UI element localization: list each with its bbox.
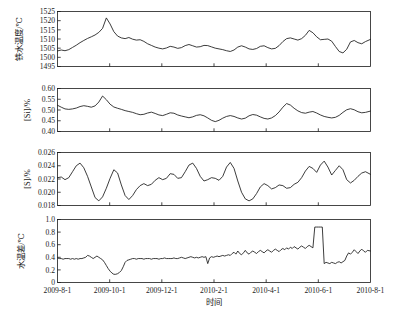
ytick-label-2-2: 0.022 xyxy=(38,175,55,184)
ytick-label-0-6: 1525 xyxy=(40,7,55,16)
xtick-label-2: 2009-12-1 xyxy=(146,286,178,295)
xtick-label-3: 2010-2-1 xyxy=(200,286,228,295)
ytick-label-2-1: 0.020 xyxy=(38,188,55,197)
xaxis-group: 2009-8-12009-10-12009-12-12010-2-12010-4… xyxy=(44,286,385,308)
xtick-label-5: 2010-6-1 xyxy=(304,286,332,295)
ytick-label-3-2: 0.4 xyxy=(46,253,56,262)
ytick-label-1-2: 0.50 xyxy=(42,106,55,115)
xtick-label-1: 2009-10-1 xyxy=(94,286,126,295)
series-line-1-0 xyxy=(58,96,371,122)
panel-3: 00.20.40.60.81.0水温差/℃ xyxy=(16,215,371,287)
xtick-label-4: 2010-4-1 xyxy=(252,286,280,295)
panel-2: 0.0180.0200.0220.0240.026[S]/% xyxy=(23,148,371,210)
ytick-label-3-3: 0.6 xyxy=(46,240,56,249)
xtick-label-6: 2010-8-1 xyxy=(357,286,385,295)
panel-frame-0 xyxy=(58,12,371,67)
ytick-label-3-5: 1.0 xyxy=(46,215,56,224)
ytick-label-2-0: 0.018 xyxy=(38,201,55,210)
ytick-label-1-0: 0.40 xyxy=(42,127,55,136)
ylabel-1: [Si]/% xyxy=(23,99,32,121)
ytick-label-1-4: 0.60 xyxy=(42,84,55,93)
xtick-label-0: 2009-8-1 xyxy=(44,286,72,295)
series-line-0-0 xyxy=(58,18,371,53)
ytick-label-2-3: 0.024 xyxy=(38,161,55,170)
multi-panel-timeseries-figure: 1495150015051510151515201525铁水温度/℃0.400.… xyxy=(0,0,397,314)
ytick-label-0-4: 1515 xyxy=(40,26,55,35)
ylabel-3: 水温差/℃ xyxy=(16,233,26,269)
ytick-label-3-1: 0.2 xyxy=(46,266,56,275)
ytick-label-0-2: 1505 xyxy=(40,44,55,53)
series-line-3-0 xyxy=(58,227,371,274)
ytick-label-2-4: 0.026 xyxy=(38,148,55,157)
panel-frame-2 xyxy=(58,153,371,206)
panel-0: 1495150015051510151515201525铁水温度/℃ xyxy=(14,7,371,71)
series-line-2-0 xyxy=(58,161,371,201)
ytick-label-0-5: 1520 xyxy=(40,16,55,25)
ytick-label-1-1: 0.45 xyxy=(42,116,55,125)
panel-frame-1 xyxy=(58,89,371,132)
ytick-label-1-3: 0.55 xyxy=(42,95,55,104)
panel-1: 0.400.450.500.550.60[Si]/% xyxy=(23,84,371,136)
ytick-label-0-0: 1495 xyxy=(40,62,55,71)
xaxis-title: 时间 xyxy=(206,297,222,307)
ytick-label-0-1: 1500 xyxy=(40,53,55,62)
ylabel-0: 铁水温度/℃ xyxy=(14,17,24,61)
ylabel-2: [S]/% xyxy=(23,169,32,189)
ytick-label-3-4: 0.8 xyxy=(46,228,56,237)
ytick-label-0-3: 1510 xyxy=(40,35,55,44)
chart-canvas: 1495150015051510151515201525铁水温度/℃0.400.… xyxy=(0,0,397,314)
